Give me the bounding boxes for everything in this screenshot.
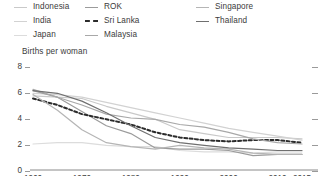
chart-figure: Indonesia India Japan ROK Sri Lanka bbox=[0, 0, 329, 196]
y-tick-label-8: 8 bbox=[17, 62, 22, 71]
x-tick-label-2015: 2015 bbox=[293, 174, 312, 176]
legend-label-singapore: Singapore bbox=[215, 3, 253, 11]
x-tick-label-1990: 1990 bbox=[171, 174, 190, 176]
legend-label-malaysia: Malaysia bbox=[104, 31, 137, 39]
x-tick-label-1980: 1980 bbox=[122, 174, 141, 176]
legend-item-indonesia: Indonesia bbox=[14, 0, 69, 14]
legend-label-india: India bbox=[33, 17, 51, 25]
legend-column-3: Singapore Thailand bbox=[196, 0, 253, 28]
x-tick-label-2000: 2000 bbox=[220, 174, 239, 176]
legend-label-thailand: Thailand bbox=[215, 17, 247, 25]
x-tick-label-1960: 1960 bbox=[24, 174, 43, 176]
line-chart-svg: 864201960197019801990200020102015 bbox=[0, 58, 329, 176]
legend-label-rok: ROK bbox=[104, 3, 122, 11]
legend-item-sri-lanka: Sri Lanka bbox=[85, 14, 140, 28]
series-line-japan bbox=[33, 143, 302, 153]
legend-swatch-singapore bbox=[196, 7, 209, 8]
x-tick-label-1970: 1970 bbox=[73, 174, 92, 176]
legend-item-india: India bbox=[14, 14, 69, 28]
legend-swatch-japan bbox=[14, 35, 27, 36]
legend-swatch-indonesia bbox=[14, 7, 27, 8]
series-line-india bbox=[33, 93, 302, 140]
legend-label-indonesia: Indonesia bbox=[33, 3, 69, 11]
y-tick-label-6: 6 bbox=[17, 88, 22, 97]
legend-item-japan: Japan bbox=[14, 28, 69, 42]
legend-column-1: Indonesia India Japan bbox=[14, 0, 69, 42]
legend-swatch-india bbox=[14, 21, 27, 22]
legend-item-rok: ROK bbox=[85, 0, 140, 14]
y-tick-label-2: 2 bbox=[17, 140, 22, 149]
x-tick-label-2010: 2010 bbox=[268, 174, 287, 176]
plot-area: 864201960197019801990200020102015 bbox=[0, 58, 329, 176]
legend-swatch-malaysia bbox=[85, 35, 98, 36]
y-tick-label-0: 0 bbox=[17, 166, 22, 175]
legend-label-japan: Japan bbox=[33, 31, 56, 39]
y-axis-title: Births per woman bbox=[22, 47, 87, 56]
legend-item-singapore: Singapore bbox=[196, 0, 253, 14]
legend-swatch-thailand bbox=[196, 21, 209, 22]
legend-swatch-sri-lanka bbox=[85, 20, 98, 22]
series-line-sri-lanka bbox=[33, 99, 302, 143]
legend-item-malaysia: Malaysia bbox=[85, 28, 140, 42]
chart-legend: Indonesia India Japan ROK Sri Lanka bbox=[0, 0, 329, 44]
y-tick-label-4: 4 bbox=[17, 114, 22, 123]
legend-item-thailand: Thailand bbox=[196, 14, 253, 28]
legend-swatch-rok bbox=[85, 7, 98, 8]
legend-column-2: ROK Sri Lanka Malaysia bbox=[85, 0, 140, 42]
legend-label-sri-lanka: Sri Lanka bbox=[104, 17, 140, 25]
series-line-thailand bbox=[33, 91, 302, 151]
